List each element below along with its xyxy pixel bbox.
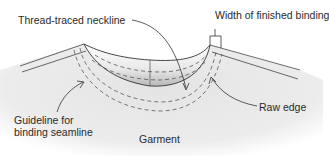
guideline-label-line2: binding seamline [14, 126, 93, 138]
raw-edge-label: Raw edge [259, 101, 306, 113]
neckline-label: Thread-traced neckline [18, 14, 125, 26]
guideline-label-line1: Guideline for [14, 114, 74, 126]
binding-width-label: Width of finished binding [215, 9, 329, 21]
garment-label: Garment [139, 133, 180, 145]
